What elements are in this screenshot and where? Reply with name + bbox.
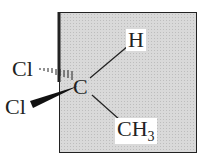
ch3-subscript: 3 (148, 129, 155, 144)
dashed-wedge-bond (40, 68, 72, 80)
atom-c-center: C (73, 76, 88, 98)
group-ch3: CH3 (115, 118, 157, 144)
solid-wedge-bond (30, 86, 78, 108)
atom-h: H (126, 29, 146, 51)
atom-cl-dashed: Cl (12, 58, 33, 80)
ch3-text: CH (117, 116, 148, 141)
bond-c-h (90, 46, 128, 78)
bond-c-ch3 (92, 95, 120, 120)
atom-cl-wedged: Cl (5, 96, 26, 118)
bonds (0, 0, 210, 162)
